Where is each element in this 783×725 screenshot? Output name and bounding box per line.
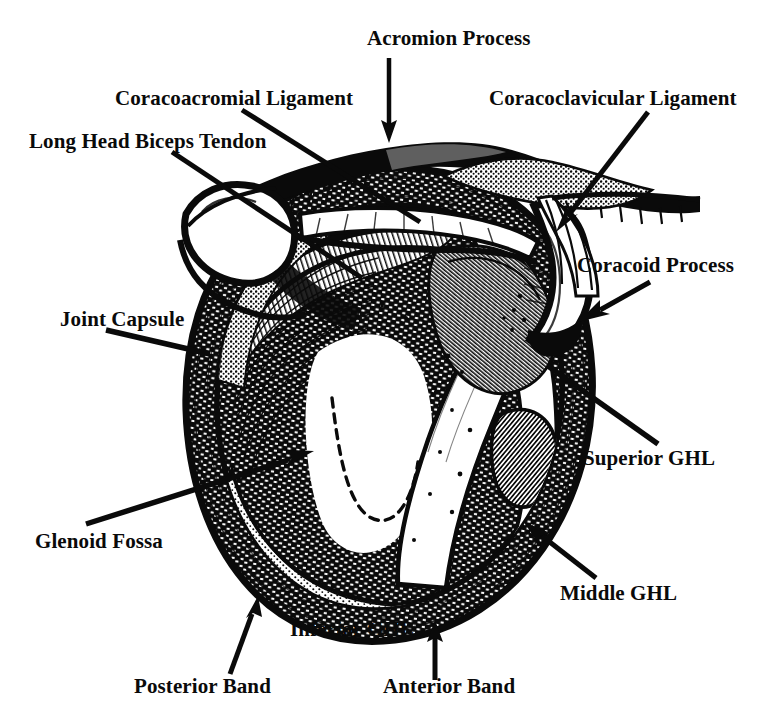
leader-posterior-band [230,614,252,674]
leader-coracoid-process [600,282,650,310]
label-superior-ghl: Superior GHL [583,448,715,469]
label-anterior-band: Anterior Band [383,676,515,697]
label-joint-capsule: Joint Capsule [60,309,184,330]
label-acromion-process: Acromion Process [367,28,531,49]
anatomy-figure: Acromion Process Coracoacromial Ligament… [0,0,783,725]
label-long-head-biceps-tendon: Long Head Biceps Tendon [29,131,266,152]
leader-middle-ghl [542,536,596,578]
label-inferior-ghl: Inferior GHL [290,619,414,640]
label-coracoclavicular-ligament: Coracoclavicular Ligament [489,88,737,109]
label-posterior-band: Posterior Band [134,676,271,697]
label-middle-ghl: Middle GHL [560,583,677,604]
label-coracoid-process: Coracoid Process [577,255,734,276]
label-glenoid-fossa: Glenoid Fossa [35,531,163,552]
label-coracoacromial-ligament: Coracoacromial Ligament [115,88,353,109]
